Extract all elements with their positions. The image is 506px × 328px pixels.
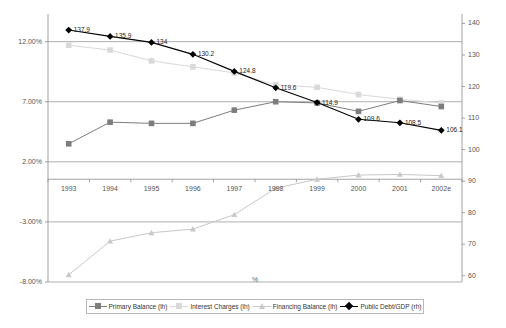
series-line <box>69 101 442 144</box>
legend-item[interactable]: Interest Charges (lh) <box>170 303 249 310</box>
data-label: 119.6 <box>281 84 297 91</box>
data-label: 109.6 <box>364 115 380 122</box>
right-axis-tick-label: 110 <box>468 114 498 121</box>
x-axis-tick-label: 2001 <box>380 185 420 192</box>
data-point-marker <box>231 212 237 217</box>
data-label: 135.9 <box>115 32 131 39</box>
series-line <box>69 30 442 130</box>
left-axis-tick-label: -8.00% <box>0 278 42 285</box>
right-axis-tick-label: 140 <box>468 19 498 26</box>
data-point-marker <box>65 27 72 34</box>
x-axis-tick-label: 2002e <box>421 185 461 192</box>
legend-item[interactable]: Public Debt/GDP (rh) <box>340 303 421 310</box>
data-point-marker <box>397 98 403 104</box>
legend-swatch-triangle-icon <box>253 303 271 310</box>
data-point-marker <box>190 121 196 127</box>
legend-item[interactable]: Financing Balance (lh) <box>253 303 338 310</box>
data-point-marker <box>438 127 445 134</box>
data-point-marker <box>314 85 320 91</box>
data-point-marker <box>232 107 238 113</box>
data-point-marker <box>149 121 155 127</box>
data-point-marker <box>355 116 362 123</box>
legend-label: Public Debt/GDP (rh) <box>360 303 421 310</box>
axis-caption: % <box>252 276 258 283</box>
right-axis-tick-label: 90 <box>468 177 498 184</box>
data-label: 130.2 <box>198 50 214 57</box>
chart-container: 12.00%7.00%2.00%-3.00%-8.00% 14013012011… <box>0 0 506 328</box>
data-point-marker <box>397 119 404 126</box>
right-axis-tick-label: 100 <box>468 146 498 153</box>
right-axis-tick-label: 60 <box>468 272 498 279</box>
left-axis-tick-label: 12.00% <box>0 38 42 45</box>
data-point-marker <box>148 39 155 46</box>
data-label: 137.9 <box>74 26 90 33</box>
data-point-marker <box>66 42 72 48</box>
right-axis-tick-label: 120 <box>468 83 498 90</box>
data-point-marker <box>107 33 114 40</box>
right-axis-tick-label: 80 <box>468 209 498 216</box>
x-axis-tick-label: 1997 <box>214 185 254 192</box>
right-axis-tick-label: 70 <box>468 240 498 247</box>
data-label: 114.9 <box>322 99 338 106</box>
x-axis-tick-label: 1996 <box>173 185 213 192</box>
legend-label: Primary Balance (lh) <box>109 303 168 310</box>
right-axis-tick-label: 130 <box>468 51 498 58</box>
data-point-marker <box>356 109 362 115</box>
data-point-marker <box>66 141 72 147</box>
data-point-marker <box>149 58 155 64</box>
data-point-marker <box>107 119 113 125</box>
data-label: 134 <box>157 38 168 45</box>
legend-label: Financing Balance (lh) <box>273 303 338 310</box>
x-axis-tick-label: 2000 <box>339 185 379 192</box>
chart-legend: Primary Balance (lh)Interest Charges (lh… <box>86 299 424 314</box>
left-axis-tick-label: 2.00% <box>0 158 42 165</box>
legend-swatch-square-icon <box>89 303 107 310</box>
data-point-marker <box>190 51 197 58</box>
x-axis-tick-label: 1993 <box>49 185 89 192</box>
left-axis-tick-label: 7.00% <box>0 98 42 105</box>
data-point-marker <box>190 64 196 70</box>
data-point-marker <box>273 99 279 105</box>
legend-item[interactable]: Primary Balance (lh) <box>89 303 168 310</box>
legend-swatch-square-icon <box>170 303 188 310</box>
x-axis-tick-label: 1995 <box>132 185 172 192</box>
legend-swatch-diamond-icon <box>340 303 358 310</box>
data-point-marker <box>439 104 445 110</box>
x-axis-tick-label: 1994 <box>90 185 130 192</box>
legend-label: Interest Charges (lh) <box>190 303 249 310</box>
data-label: 124.8 <box>239 67 255 74</box>
x-axis-tick-label: 1998 <box>256 185 296 192</box>
data-point-marker <box>107 47 113 53</box>
data-label: 106.1 <box>446 126 462 133</box>
data-label: 108.5 <box>405 119 421 126</box>
data-point-marker <box>356 92 362 98</box>
left-axis-tick-label: -3.00% <box>0 218 42 225</box>
x-axis-tick-label: 1999 <box>297 185 337 192</box>
